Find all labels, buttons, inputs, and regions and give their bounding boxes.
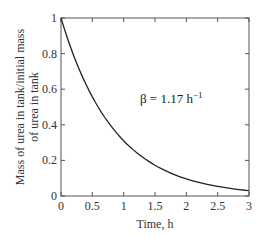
x-axis-ticks: 00.511.522.53 [58, 18, 252, 213]
y-tick-label: 0.4 [42, 118, 57, 132]
annotation-superscript: −1 [193, 90, 203, 100]
x-tick-label: 0.5 [85, 199, 100, 213]
y-axis-label-line1: Mass of urea in tank/initial mass [13, 29, 27, 186]
x-tick-label: 0 [58, 199, 64, 213]
x-tick-label: 3 [246, 199, 252, 213]
y-tick-label: 0 [51, 189, 57, 203]
x-tick-label: 1 [121, 199, 127, 213]
y-tick-label: 0.8 [42, 47, 57, 61]
x-tick-label: 2 [183, 199, 189, 213]
y-tick-label: 0.2 [42, 153, 57, 167]
x-tick-label: 2.5 [210, 199, 225, 213]
y-axis-ticks: 00.20.40.60.81 [42, 11, 249, 203]
plot-frame [61, 18, 249, 196]
annotation-text: β = 1.17 h [140, 91, 193, 106]
y-axis-label-line2: of urea in tank [27, 72, 41, 142]
x-axis-label: Time, h [137, 217, 174, 231]
y-axis-label: Mass of urea in tank/initial mass of ure… [13, 29, 41, 186]
chart: 00.511.522.53 00.20.40.60.81 β = 1.17 h−… [0, 0, 263, 237]
y-tick-label: 0.6 [42, 82, 57, 96]
x-tick-label: 1.5 [148, 199, 163, 213]
y-tick-label: 1 [51, 11, 57, 25]
annotation-beta: β = 1.17 h−1 [140, 90, 203, 106]
